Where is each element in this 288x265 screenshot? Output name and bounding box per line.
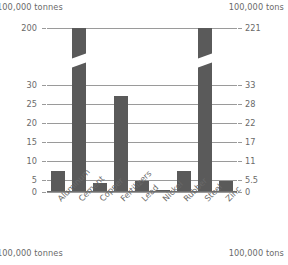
y-axis-left-tick-label: 20 xyxy=(27,119,37,127)
header-left-units: 100,000 tonnes xyxy=(0,2,63,12)
y-axis-right-tick-label: 11 xyxy=(245,157,255,165)
y-axis-right-tick-label: 221 xyxy=(245,24,261,32)
y-axis-right-tick-label: 28 xyxy=(245,100,255,108)
y-tick-left xyxy=(42,123,46,124)
y-axis-left-tick-label: 30 xyxy=(27,81,37,89)
axis-break-mark xyxy=(70,53,88,69)
y-tick-right xyxy=(238,142,242,143)
footer-units-row: 100,000 tonnes 100,000 tons xyxy=(0,248,288,260)
footer-left-units: 100,000 tonnes xyxy=(0,248,63,258)
y-tick-left xyxy=(42,192,46,193)
y-tick-left xyxy=(42,85,46,86)
y-tick-left xyxy=(42,28,46,29)
y-axis-left-tick-label: 10 xyxy=(27,157,37,165)
y-tick-right xyxy=(238,28,242,29)
y-axis-left-tick-label: 200 xyxy=(21,24,37,32)
y-tick-left xyxy=(42,161,46,162)
y-axis-left-tick-label: 15 xyxy=(27,138,37,146)
y-tick-right xyxy=(238,104,242,105)
y-axis-right-tick-label: 22 xyxy=(245,119,255,127)
y-axis-right-tick-label: 5.5 xyxy=(245,176,258,184)
y-axis-right-tick-label: 17 xyxy=(245,138,255,146)
y-axis-left-tick-label: 25 xyxy=(27,100,37,108)
y-axis-right-tick-label: 0 xyxy=(245,188,250,196)
y-tick-left xyxy=(42,104,46,105)
header-units-row: 100,000 tonnes 100,000 tons xyxy=(0,2,288,14)
y-tick-right xyxy=(238,123,242,124)
y-axis-left-tick-label: 0 xyxy=(32,188,37,196)
y-tick-left xyxy=(42,142,46,143)
header-right-units: 100,000 tons xyxy=(229,2,284,12)
bar-steel xyxy=(198,28,212,192)
footer-right-units: 100,000 tons xyxy=(229,248,284,258)
y-axis-right-tick-label: 33 xyxy=(245,81,255,89)
y-axis-left-tick-label: 5 xyxy=(32,176,37,184)
y-tick-right xyxy=(238,180,242,181)
axis-break-mark xyxy=(196,53,214,69)
y-tick-right xyxy=(238,161,242,162)
y-tick-left xyxy=(42,180,46,181)
y-tick-right xyxy=(238,85,242,86)
chart-plot-area xyxy=(47,28,237,192)
